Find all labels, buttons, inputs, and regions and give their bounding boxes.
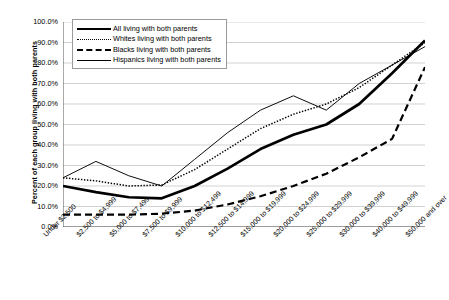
legend-swatch-all-icon (77, 23, 111, 33)
legend-label-whites: Whites living with both parents (113, 34, 212, 43)
legend-item-blacks: Blacks living with both parents (77, 44, 221, 55)
legend-label-all: All living with both parents (113, 24, 197, 33)
legend-swatch-hispanics-icon (77, 55, 111, 65)
legend-label-blacks: Blacks living with both parents (113, 45, 211, 54)
legend-item-hispanics: Hispanics living with both parents (77, 55, 221, 66)
legend-item-whites: Whites living with both parents (77, 34, 221, 45)
legend-item-all: All living with both parents (77, 23, 221, 34)
legend-label-hispanics: Hispanics living with both parents (113, 55, 221, 64)
chart-legend: All living with both parents Whites livi… (72, 19, 227, 69)
legend-swatch-blacks-icon (77, 44, 111, 54)
x-tick-label: Under $2,500 (42, 203, 78, 239)
legend-swatch-whites-icon (77, 34, 111, 44)
